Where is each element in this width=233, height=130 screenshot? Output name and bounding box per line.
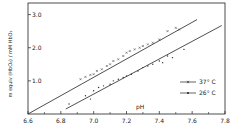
data-point-37c (158, 38, 160, 40)
x-tick-label: 7.8 (220, 117, 230, 124)
x-tick-label: 7.6 (187, 117, 197, 124)
y-tick-label: 2.0 (32, 44, 42, 51)
data-point-37c (93, 73, 95, 75)
y-tick-label: 3.0 (32, 11, 42, 18)
data-point-37c (126, 52, 128, 54)
x-tick-label: 7.2 (122, 117, 132, 124)
data-point-26c (90, 98, 91, 99)
data-point-26c (172, 57, 173, 58)
data-point-37c (109, 63, 111, 65)
data-point-26c (103, 85, 104, 86)
legend-marker-dot (187, 92, 189, 94)
data-point-26c (142, 67, 143, 68)
chart: 6.66.87.07.27.47.67.81.02.03.037° C26° C… (0, 0, 233, 130)
legend-label: 26° C (199, 89, 216, 96)
data-point-26c (147, 65, 148, 66)
fit-line-37c (28, 20, 197, 114)
data-point-37c (101, 68, 103, 70)
data-point-37c (89, 74, 91, 76)
y-tick-label: 1.0 (32, 77, 42, 84)
data-point-37c (167, 30, 169, 32)
data-point-26c (113, 80, 114, 81)
data-point-26c (162, 62, 163, 63)
data-point-26c (93, 90, 94, 91)
data-point-26c (123, 77, 124, 78)
data-point-26c (85, 95, 86, 96)
data-point-37c (112, 60, 114, 62)
data-point-37c (175, 27, 177, 29)
data-point-26c (183, 49, 184, 50)
data-point-37c (152, 42, 154, 44)
data-point-26c (167, 55, 168, 56)
data-point-37c (96, 70, 98, 72)
data-point-26c (126, 75, 127, 76)
fit-line-26c (66, 26, 222, 109)
y-axis-label: m equiv (HbO₂) / mM HbO₂ (7, 30, 14, 97)
data-point-37c (84, 76, 86, 78)
data-point-26c (109, 83, 110, 84)
data-point-26c (159, 60, 160, 61)
data-point-37c (142, 45, 144, 47)
data-point-37c (147, 43, 149, 45)
data-point-26c (131, 74, 132, 75)
x-tick-label: 6.8 (56, 117, 66, 124)
axes: 6.66.87.07.27.47.67.81.02.03.037° C26° C (23, 3, 230, 124)
data-point-26c (68, 103, 69, 104)
legend-label: 37° C (199, 78, 216, 85)
data-point-26c (152, 64, 153, 65)
data-point-37c (139, 47, 141, 49)
data-point-37c (106, 65, 108, 67)
data-point-37c (122, 55, 124, 57)
marks (28, 20, 222, 114)
x-axis-label: pH (136, 103, 144, 111)
data-point-26c (118, 79, 119, 80)
x-tick-label: 7.4 (155, 117, 165, 124)
x-tick-label: 6.6 (23, 117, 33, 124)
data-point-26c (137, 70, 138, 71)
data-point-37c (117, 58, 119, 60)
data-point-37c (80, 78, 82, 80)
x-tick-label: 7.0 (89, 117, 99, 124)
data-point-37c (134, 48, 136, 50)
data-point-37c (129, 50, 131, 52)
data-point-26c (98, 87, 99, 88)
